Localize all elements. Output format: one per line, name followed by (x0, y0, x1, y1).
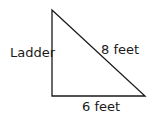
vertical-side-label: Ladder (10, 46, 55, 59)
base-label: 6 feet (82, 100, 120, 113)
hypotenuse-label: 8 feet (101, 43, 139, 56)
